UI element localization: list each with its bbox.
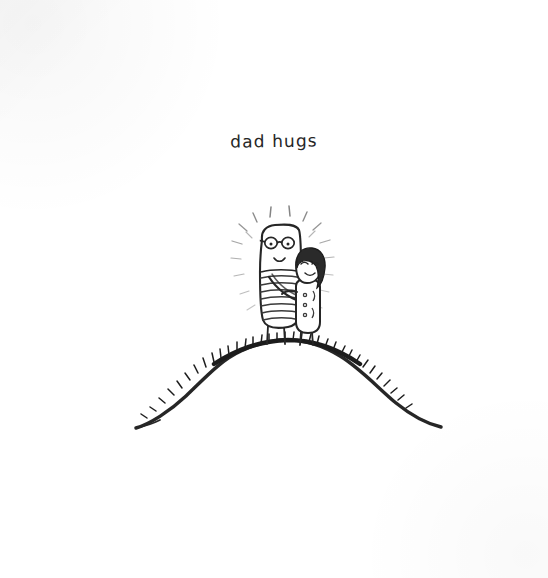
- grass-tufts: [141, 332, 412, 418]
- illustration-canvas: dad hugs: [0, 0, 548, 578]
- hand-drawn-illustration: [0, 0, 548, 578]
- child-tunic: [296, 279, 320, 333]
- hill: [136, 340, 441, 428]
